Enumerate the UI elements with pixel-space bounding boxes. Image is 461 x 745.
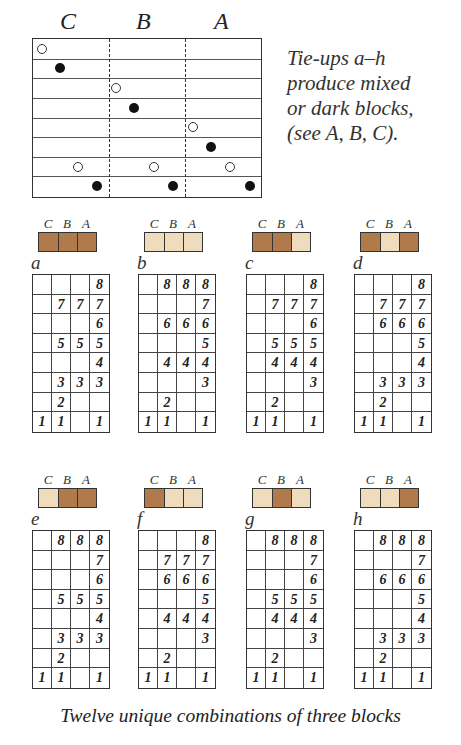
swatch-block-b-light (164, 489, 183, 507)
grid-cell: 8 (52, 531, 71, 551)
swatch-block-b-dark (58, 233, 77, 251)
grid-cell: 5 (196, 590, 215, 610)
grid-cell (52, 314, 71, 334)
grid-cell: 4 (412, 353, 431, 373)
grid-cell (355, 570, 374, 590)
grid-cell: 4 (196, 353, 215, 373)
swatch-block-c-dark (39, 233, 58, 251)
swatch-label-b: B (271, 472, 291, 488)
grid-cell (285, 393, 304, 413)
swatch-label-b: B (163, 216, 183, 232)
grid-cell: 5 (71, 590, 90, 610)
grid-cell (355, 531, 374, 551)
grid-cell: 4 (177, 609, 196, 629)
grid-cell: 3 (71, 629, 90, 649)
grid-cell (33, 275, 52, 295)
grid-cell (71, 275, 90, 295)
tieup-grid-e: 8887655543332111 (32, 530, 110, 689)
swatch-label-b: B (57, 216, 77, 232)
grid-cell (355, 551, 374, 571)
grid-cell: 8 (266, 531, 285, 551)
grid-cell (139, 393, 158, 413)
grid-cell: 8 (374, 531, 393, 551)
grid-cell: 7 (285, 295, 304, 315)
swatch-label-c: C (252, 216, 272, 232)
swatch-label-c: C (144, 472, 164, 488)
grid-cell (90, 649, 109, 669)
grid-cell: 6 (177, 314, 196, 334)
swatch-block-a-light (183, 489, 202, 507)
grid-cell (393, 668, 412, 688)
grid-cell: 7 (374, 295, 393, 315)
grid-cell: 6 (196, 314, 215, 334)
grid-cell (247, 531, 266, 551)
grid-cell: 8 (412, 275, 431, 295)
block-swatch (38, 232, 97, 252)
tieup-row-line (33, 176, 261, 177)
open-circle-marker (37, 44, 47, 54)
grid-cell (71, 570, 90, 590)
grid-cell: 1 (247, 668, 266, 688)
grid-cell (393, 275, 412, 295)
grid-cell: 6 (158, 570, 177, 590)
tieup-grid-f: 8777666544432111 (138, 530, 216, 689)
grid-cell (393, 649, 412, 669)
grid-cell: 7 (266, 295, 285, 315)
grid-cell (355, 609, 374, 629)
grid-cell (139, 649, 158, 669)
grid-cell (355, 393, 374, 413)
grid-cell: 8 (71, 531, 90, 551)
grid-cell: 8 (158, 275, 177, 295)
grid-cell (355, 590, 374, 610)
grid-cell (374, 551, 393, 571)
grid-cell: 3 (412, 629, 431, 649)
open-circle-marker (225, 162, 235, 172)
grid-cell (266, 570, 285, 590)
open-circle-marker (149, 162, 159, 172)
grid-cell: 7 (304, 551, 323, 571)
grid-cell (285, 551, 304, 571)
grid-cell: 1 (304, 668, 323, 688)
grid-cell: 3 (52, 373, 71, 393)
grid-cell (33, 334, 52, 354)
tieup-column-label-a: A (214, 8, 229, 35)
grid-cell (71, 412, 90, 432)
grid-cell (285, 412, 304, 432)
grid-cell (52, 353, 71, 373)
grid-cell: 7 (196, 551, 215, 571)
grid-cell (247, 275, 266, 295)
grid-cell (285, 373, 304, 393)
grid-cell (374, 609, 393, 629)
grid-cell: 4 (158, 609, 177, 629)
grid-cell (158, 373, 177, 393)
grid-cell: 5 (412, 590, 431, 610)
grid-cell: 3 (374, 373, 393, 393)
panel-label: g (245, 508, 255, 530)
grid-cell (158, 531, 177, 551)
grid-cell (158, 629, 177, 649)
tieup-column-label-c: C (60, 8, 76, 35)
grid-cell (90, 393, 109, 413)
swatch-block-b-dark (272, 489, 291, 507)
block-swatch (360, 232, 419, 252)
grid-cell: 2 (266, 649, 285, 669)
grid-cell (355, 295, 374, 315)
grid-cell (158, 590, 177, 610)
grid-cell (33, 629, 52, 649)
panel-label: a (31, 252, 41, 274)
grid-cell (266, 629, 285, 649)
grid-cell (266, 373, 285, 393)
panel-label: f (137, 508, 142, 530)
grid-cell (177, 649, 196, 669)
grid-cell: 3 (52, 629, 71, 649)
swatch-block-c-dark (145, 489, 164, 507)
filled-circle-marker (168, 181, 178, 191)
open-circle-marker (73, 162, 83, 172)
filled-circle-marker (92, 181, 102, 191)
tieup-row-line (33, 118, 261, 119)
tieup-column-divider (185, 39, 186, 197)
grid-cell: 7 (90, 295, 109, 315)
grid-cell: 5 (71, 334, 90, 354)
grid-cell: 1 (33, 668, 52, 688)
grid-cell: 7 (412, 551, 431, 571)
